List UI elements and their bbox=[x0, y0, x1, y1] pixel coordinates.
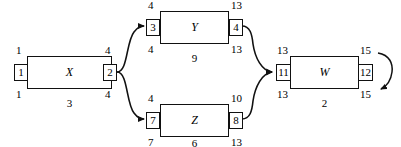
node-x-late-start: 1 bbox=[16, 89, 22, 100]
node-x-finish-box: 2 bbox=[103, 64, 117, 81]
node-y-start-box: 3 bbox=[146, 19, 160, 36]
node-z-late-finish: 13 bbox=[231, 137, 242, 147]
node-x-early-finish: 4 bbox=[105, 45, 111, 56]
node-y-finish-box: 4 bbox=[229, 19, 243, 36]
edge-x-to-y bbox=[117, 26, 144, 72]
node-z-early-finish: 10 bbox=[231, 93, 242, 104]
node-x-start-box: 1 bbox=[14, 64, 28, 81]
node-y-early-finish: 13 bbox=[231, 0, 242, 11]
node-w-label: W bbox=[290, 56, 359, 89]
edge-z-to-w bbox=[242, 72, 272, 119]
node-y-label: Y bbox=[160, 11, 229, 44]
edge-x-to-z bbox=[117, 72, 144, 119]
edge-w-loop bbox=[378, 53, 392, 89]
node-z-finish-box: 8 bbox=[229, 112, 243, 129]
node-x-early-start: 1 bbox=[16, 45, 22, 56]
node-w-late-start: 13 bbox=[277, 89, 288, 100]
node-z-start-box: 7 bbox=[146, 112, 160, 129]
node-w-early-finish: 15 bbox=[360, 45, 371, 56]
node-x-duration: 3 bbox=[27, 98, 112, 109]
node-x-label: X bbox=[27, 56, 112, 89]
node-w-finish-box: 12 bbox=[358, 64, 373, 81]
node-w-late-finish: 15 bbox=[360, 89, 371, 100]
node-y-late-start: 4 bbox=[148, 44, 154, 55]
network-diagram-canvas: X 1 2 1 1 4 4 3 Y 3 4 4 4 13 13 9 Z 7 8 … bbox=[0, 0, 401, 147]
node-z-duration: 6 bbox=[160, 138, 229, 147]
node-z-late-start: 7 bbox=[148, 137, 154, 147]
node-w-start-box: 11 bbox=[276, 64, 291, 81]
node-z-early-start: 4 bbox=[148, 93, 154, 104]
node-y-late-finish: 13 bbox=[231, 44, 242, 55]
node-w-early-start: 13 bbox=[277, 45, 288, 56]
edge-y-to-w bbox=[242, 26, 272, 72]
node-z-label: Z bbox=[160, 104, 229, 137]
node-y-early-start: 4 bbox=[148, 0, 154, 11]
node-w-duration: 2 bbox=[290, 98, 359, 109]
node-y-duration: 9 bbox=[160, 53, 229, 64]
